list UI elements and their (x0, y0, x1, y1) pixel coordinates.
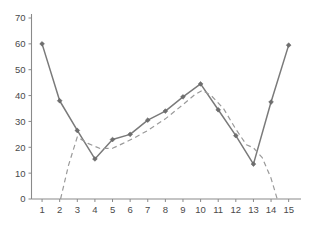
x-tick-label: 5 (110, 204, 115, 215)
y-tick-label: 0 (20, 193, 25, 204)
y-tick-label: 40 (15, 90, 26, 101)
y-tick-label: 50 (15, 64, 26, 75)
x-tick-label: 8 (163, 204, 168, 215)
data-point-marker (269, 100, 274, 105)
series-line-observed (42, 44, 289, 164)
series-layer (42, 44, 289, 199)
data-point-marker (40, 41, 45, 46)
y-tick-label: 20 (15, 142, 26, 153)
x-tick-label: 1 (39, 204, 44, 215)
x-tick-label: 3 (75, 204, 80, 215)
x-axis: 123456789101112131415 (32, 199, 302, 215)
line-chart: 010203040506070 123456789101112131415 (0, 0, 309, 226)
y-tick-label: 30 (15, 116, 26, 127)
x-tick-label: 15 (283, 204, 294, 215)
x-tick-label: 9 (180, 204, 185, 215)
x-tick-label: 6 (127, 204, 132, 215)
x-tick-label: 11 (213, 204, 223, 215)
y-tick-label: 60 (15, 38, 26, 49)
x-tick-label: 13 (248, 204, 259, 215)
series-line-fitted (61, 90, 278, 199)
x-tick-label: 12 (231, 204, 242, 215)
marker-layer (40, 41, 291, 166)
chart-container: 010203040506070 123456789101112131415 (0, 0, 309, 226)
x-tick-label: 14 (266, 204, 277, 215)
data-point-marker (286, 43, 291, 48)
x-tick-label: 7 (145, 204, 150, 215)
y-tick-label: 10 (15, 168, 26, 179)
y-axis: 010203040506070 (15, 12, 32, 204)
x-tick-label: 2 (57, 204, 62, 215)
x-tick-label: 10 (195, 204, 206, 215)
y-tick-label: 70 (15, 12, 26, 23)
x-tick-label: 4 (92, 204, 97, 215)
